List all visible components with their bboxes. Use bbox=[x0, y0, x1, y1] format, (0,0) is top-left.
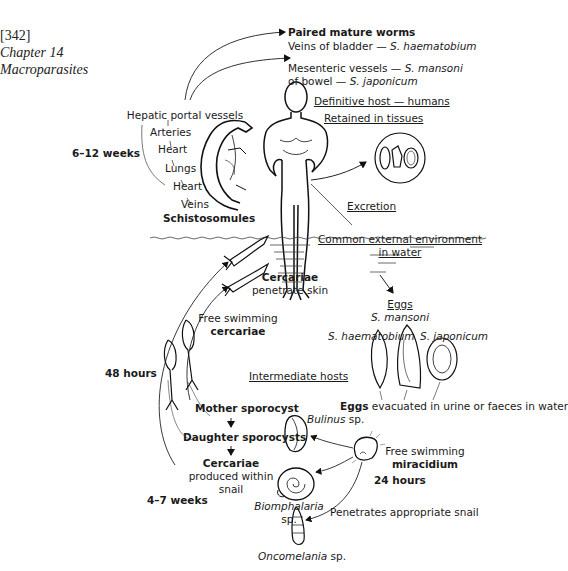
eggs-mansoni-label: Eggs S. mansoni bbox=[370, 298, 430, 324]
worm-site-arrows bbox=[185, 32, 290, 100]
definitive-host-label: Definitive host — humans bbox=[314, 95, 450, 108]
external-environment-label: Common external environment in water bbox=[310, 233, 490, 259]
excretion-line bbox=[311, 184, 352, 225]
cercariae-penetrate-label: Cercariae penetrate skin bbox=[250, 271, 330, 297]
cercariae-duration: 48 hours bbox=[105, 367, 157, 380]
mother-sporocyst-label: Mother sporocyst bbox=[195, 402, 299, 415]
free-swimming-cercariae-label: Free swimming cercariae bbox=[198, 312, 278, 338]
migration-duration: 6–12 weeks bbox=[72, 147, 140, 160]
bulinus-label: Bulinus sp. bbox=[307, 413, 364, 426]
migration-step: Heart bbox=[158, 143, 187, 156]
mesenteric-site-label: Mesenteric vessels — S. mansoni bbox=[288, 62, 463, 75]
chapter-title: Chapter 14 bbox=[0, 44, 88, 61]
eggs-down-arrow bbox=[380, 275, 393, 293]
bowel-site-label: of bowel — S. japonicum bbox=[288, 75, 418, 88]
egg-haematobium-label: S. haematobium bbox=[328, 330, 415, 343]
miracidium-duration: 24 hours bbox=[374, 474, 426, 487]
migration-step: Veins bbox=[181, 198, 209, 211]
migration-step: Arteries bbox=[150, 126, 191, 139]
cercariae-produced-label: Cercariae produced within snail bbox=[186, 457, 276, 496]
excretion-label: Excretion bbox=[347, 200, 396, 213]
retained-eggs-circle bbox=[375, 133, 425, 183]
eggs-evacuated-label: Eggs evacuated in urine or faeces in wat… bbox=[340, 400, 568, 413]
migration-step: Hepatic portal vessels bbox=[110, 109, 260, 122]
egg-japonicum-label: S. japonicum bbox=[420, 330, 488, 343]
miracidium-drawing bbox=[354, 437, 377, 460]
schistosomules-label: Schistosomules bbox=[163, 212, 255, 225]
page-number: [342] bbox=[0, 27, 88, 44]
paired-worms-title: Paired mature worms bbox=[288, 26, 415, 39]
egg-pointer-lines bbox=[380, 382, 440, 400]
oncomelania-label: Oncomelania sp. bbox=[258, 550, 346, 563]
snail-duration: 4–7 weeks bbox=[147, 494, 208, 507]
biomphalaria-snail bbox=[278, 468, 314, 500]
daughter-sporocysts-label: Daughter sporocysts bbox=[183, 431, 306, 444]
miracidium-label: Free swimming miracidium bbox=[380, 445, 470, 471]
migration-step: Lungs bbox=[165, 162, 196, 175]
migration-step: Heart bbox=[173, 180, 202, 193]
biomphalaria-label: Biomphalaria sp. bbox=[254, 500, 324, 526]
page-header: [342] Chapter 14 Macroparasites bbox=[0, 27, 88, 78]
bladder-site-label: Veins of bladder — S. haematobium bbox=[288, 40, 477, 53]
intermediate-hosts-label: Intermediate hosts bbox=[249, 370, 348, 383]
retained-tissues-label: Retained in tissues bbox=[324, 112, 423, 125]
adult-worm-pair bbox=[201, 121, 252, 210]
penetrates-snail-label: Penetrates appropriate snail bbox=[330, 506, 479, 519]
section-title: Macroparasites bbox=[0, 61, 88, 78]
migration-path: Hepatic portal vessels bbox=[110, 109, 260, 122]
